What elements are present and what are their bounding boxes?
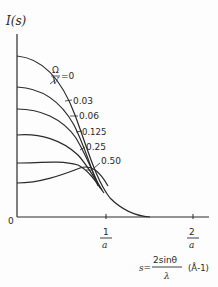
- x-tick-1-num: 1: [103, 227, 109, 237]
- x-axis-label-s: s=: [139, 263, 151, 273]
- x-axis-unit: (Å-1): [188, 262, 209, 273]
- legend-param-num: Ω: [52, 65, 59, 75]
- x-axis-label-num: 2sinθ: [153, 255, 178, 265]
- chart-figure: I(s) 0 1 a 2 a s= 2sinθ λ (Å-1) Ω: [0, 0, 218, 287]
- legend-label-0.25: 0.25: [86, 142, 106, 152]
- x-tick-2-den: a: [189, 240, 194, 250]
- origin-label: 0: [8, 216, 14, 226]
- x-tick-2-num: 2: [189, 227, 195, 237]
- x-tick-1-den: a: [102, 240, 107, 250]
- legend-label-0.06: 0.06: [79, 111, 99, 121]
- legend-label-0: =0: [61, 71, 75, 81]
- legend-label-0.03: 0.03: [73, 96, 93, 106]
- x-axis-label-den: λ: [163, 271, 170, 281]
- y-axis-label: I(s): [5, 14, 27, 28]
- legend-label-0.125: 0.125: [82, 127, 106, 137]
- legend-param-den: V: [52, 76, 60, 86]
- chart-svg: I(s) 0 1 a 2 a s= 2sinθ λ (Å-1) Ω: [0, 0, 218, 287]
- leader-lines: [50, 80, 100, 170]
- legend-label-0.50: 0.50: [101, 156, 121, 166]
